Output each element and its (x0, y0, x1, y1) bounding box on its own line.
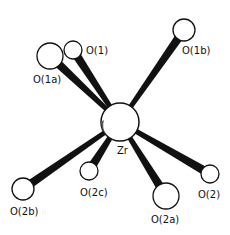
label-Zr: Zr (117, 145, 129, 156)
atom-O2b (12, 178, 34, 200)
atom-O2c (80, 162, 98, 180)
atom-O2a (153, 183, 179, 209)
zr-atom (101, 103, 139, 141)
bond-O1b (123, 35, 183, 117)
atom-O1 (64, 41, 82, 59)
label-O1b: O(1b) (182, 45, 210, 56)
label-O2c: O(2c) (80, 187, 108, 198)
label-O1a: O(1a) (33, 74, 61, 85)
zr-coordination-diagram: O(1a)O(1)O(1b)O(2c)O(2b)O(2a)O(2)Zr (0, 0, 230, 235)
label-O2b: O(2b) (10, 206, 38, 217)
atom-O1b (173, 19, 195, 41)
atom-O2 (201, 165, 219, 183)
label-O2a: O(2a) (151, 214, 179, 225)
atom-O1a (37, 43, 63, 69)
label-O2: O(2) (198, 189, 220, 200)
label-O1: O(1) (86, 45, 108, 56)
